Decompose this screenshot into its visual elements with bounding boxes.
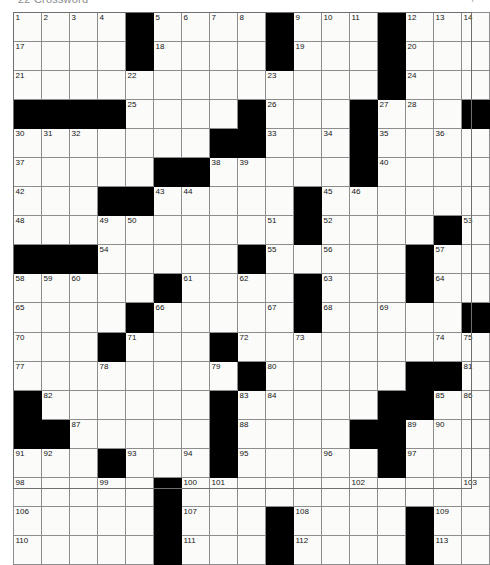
grid-cell[interactable] bbox=[462, 274, 490, 303]
grid-cell[interactable] bbox=[462, 535, 490, 564]
grid-cell-numbered[interactable]: 2 bbox=[42, 13, 70, 42]
grid-cell-numbered[interactable]: 110 bbox=[14, 535, 42, 564]
grid-cell[interactable] bbox=[42, 187, 70, 216]
grid-cell-numbered[interactable]: 40 bbox=[378, 158, 406, 187]
grid-cell-numbered[interactable]: 97 bbox=[406, 448, 434, 477]
grid-cell[interactable] bbox=[378, 216, 406, 245]
grid-cell[interactable] bbox=[126, 506, 154, 535]
grid-cell[interactable] bbox=[70, 332, 98, 361]
grid-cell[interactable] bbox=[210, 506, 238, 535]
grid-cell[interactable] bbox=[70, 71, 98, 100]
grid-cell-numbered[interactable]: 49 bbox=[98, 216, 126, 245]
grid-cell-numbered[interactable]: 103 bbox=[462, 477, 490, 506]
grid-cell[interactable] bbox=[294, 71, 322, 100]
grid-cell-numbered[interactable]: 21 bbox=[14, 71, 42, 100]
grid-cell[interactable] bbox=[238, 506, 266, 535]
grid-cell-numbered[interactable]: 54 bbox=[98, 245, 126, 274]
grid-cell[interactable] bbox=[406, 477, 434, 506]
grid-cell[interactable] bbox=[378, 187, 406, 216]
grid-cell[interactable] bbox=[322, 158, 350, 187]
grid-cell[interactable] bbox=[70, 361, 98, 390]
grid-cell-numbered[interactable]: 79 bbox=[210, 361, 238, 390]
grid-cell[interactable] bbox=[294, 100, 322, 129]
grid-cell-numbered[interactable]: 11 bbox=[350, 13, 378, 42]
grid-cell[interactable] bbox=[182, 129, 210, 158]
grid-cell-numbered[interactable]: 90 bbox=[434, 419, 462, 448]
grid-cell-numbered[interactable]: 107 bbox=[182, 506, 210, 535]
grid-cell[interactable] bbox=[70, 448, 98, 477]
grid-cell[interactable] bbox=[98, 303, 126, 332]
grid-cell[interactable] bbox=[322, 361, 350, 390]
grid-cell[interactable] bbox=[42, 506, 70, 535]
grid-cell[interactable] bbox=[322, 535, 350, 564]
grid-cell-numbered[interactable]: 72 bbox=[238, 332, 266, 361]
grid-cell[interactable] bbox=[378, 361, 406, 390]
grid-cell-numbered[interactable]: 108 bbox=[294, 506, 322, 535]
grid-cell-numbered[interactable]: 14 bbox=[462, 13, 490, 42]
grid-cell-numbered[interactable]: 75 bbox=[462, 332, 490, 361]
grid-cell[interactable] bbox=[42, 332, 70, 361]
grid-cell-numbered[interactable]: 43 bbox=[154, 187, 182, 216]
grid-cell[interactable] bbox=[406, 129, 434, 158]
grid-cell[interactable] bbox=[462, 42, 490, 71]
grid-cell[interactable] bbox=[70, 42, 98, 71]
grid-cell-numbered[interactable]: 77 bbox=[14, 361, 42, 390]
grid-cell[interactable] bbox=[378, 332, 406, 361]
grid-cell[interactable] bbox=[126, 419, 154, 448]
grid-cell-numbered[interactable]: 46 bbox=[350, 187, 378, 216]
grid-cell[interactable] bbox=[70, 390, 98, 419]
grid-cell-numbered[interactable]: 86 bbox=[462, 390, 490, 419]
grid-cell[interactable] bbox=[350, 274, 378, 303]
grid-cell[interactable] bbox=[154, 332, 182, 361]
grid-cell-numbered[interactable]: 50 bbox=[126, 216, 154, 245]
grid-cell[interactable] bbox=[294, 245, 322, 274]
grid-cell[interactable] bbox=[42, 71, 70, 100]
grid-cell-numbered[interactable]: 65 bbox=[14, 303, 42, 332]
grid-cell[interactable] bbox=[350, 71, 378, 100]
grid-cell[interactable] bbox=[322, 332, 350, 361]
grid-cell-numbered[interactable]: 36 bbox=[434, 129, 462, 158]
grid-cell-numbered[interactable]: 4 bbox=[98, 13, 126, 42]
grid-cell[interactable] bbox=[154, 419, 182, 448]
grid-cell-numbered[interactable]: 99 bbox=[98, 477, 126, 506]
grid-cell[interactable] bbox=[434, 100, 462, 129]
grid-cell[interactable] bbox=[70, 216, 98, 245]
grid-cell-numbered[interactable]: 32 bbox=[70, 129, 98, 158]
grid-cell[interactable] bbox=[98, 42, 126, 71]
grid-cell-numbered[interactable]: 51 bbox=[266, 216, 294, 245]
grid-cell-numbered[interactable]: 58 bbox=[14, 274, 42, 303]
grid-cell-numbered[interactable]: 113 bbox=[434, 535, 462, 564]
grid-cell[interactable] bbox=[98, 158, 126, 187]
grid-cell[interactable] bbox=[154, 129, 182, 158]
grid-cell-numbered[interactable]: 60 bbox=[70, 274, 98, 303]
grid-cell-numbered[interactable]: 71 bbox=[126, 332, 154, 361]
grid-cell-numbered[interactable]: 56 bbox=[322, 245, 350, 274]
grid-cell-numbered[interactable]: 1 bbox=[14, 13, 42, 42]
grid-cell-numbered[interactable]: 17 bbox=[14, 42, 42, 71]
grid-cell-numbered[interactable]: 88 bbox=[238, 419, 266, 448]
grid-cell-numbered[interactable]: 37 bbox=[14, 158, 42, 187]
grid-cell[interactable] bbox=[406, 187, 434, 216]
grid-cell[interactable] bbox=[210, 71, 238, 100]
grid-cell[interactable] bbox=[42, 361, 70, 390]
grid-cell-numbered[interactable]: 73 bbox=[294, 332, 322, 361]
grid-cell-numbered[interactable]: 19 bbox=[294, 42, 322, 71]
grid-cell-numbered[interactable]: 78 bbox=[98, 361, 126, 390]
grid-cell[interactable] bbox=[42, 535, 70, 564]
grid-cell[interactable] bbox=[70, 158, 98, 187]
grid-cell[interactable] bbox=[98, 506, 126, 535]
grid-cell[interactable] bbox=[378, 535, 406, 564]
grid-cell[interactable] bbox=[182, 216, 210, 245]
grid-cell-numbered[interactable]: 102 bbox=[350, 477, 378, 506]
grid-cell[interactable] bbox=[322, 477, 350, 506]
grid-cell-numbered[interactable]: 111 bbox=[182, 535, 210, 564]
grid-cell[interactable] bbox=[350, 506, 378, 535]
grid-cell[interactable] bbox=[126, 535, 154, 564]
grid-cell[interactable] bbox=[210, 303, 238, 332]
grid-cell[interactable] bbox=[350, 361, 378, 390]
grid-cell[interactable] bbox=[210, 274, 238, 303]
grid-cell-numbered[interactable]: 26 bbox=[266, 100, 294, 129]
grid-cell[interactable] bbox=[350, 390, 378, 419]
grid-cell[interactable] bbox=[154, 390, 182, 419]
grid-cell-numbered[interactable]: 9 bbox=[294, 13, 322, 42]
